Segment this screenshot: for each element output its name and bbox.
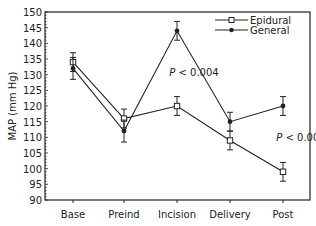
- y-tick-label: 100: [23, 164, 42, 175]
- legend-item-general: General: [215, 25, 289, 36]
- series-general: [70, 21, 286, 142]
- series-line: [73, 31, 283, 131]
- circle-marker: [71, 66, 76, 71]
- circle-marker: [281, 104, 286, 109]
- y-axis-label: MAP (mm Hg): [7, 71, 18, 140]
- p-value-annotation: P < 0.004: [169, 67, 218, 78]
- y-tick-label: 105: [23, 148, 42, 159]
- chart: 9095100105110115120125130135140145150 Ba…: [0, 0, 316, 226]
- y-tick-label: 130: [23, 70, 42, 81]
- square-marker: [227, 138, 232, 143]
- p-value-annotation: P < 0.009: [276, 132, 316, 143]
- y-tick-label: 120: [23, 101, 42, 112]
- series-group: [70, 21, 286, 181]
- legend: EpiduralGeneral: [215, 15, 291, 36]
- y-tick-label: 135: [23, 54, 42, 65]
- y-tick-label: 90: [29, 195, 42, 206]
- x-axis: BasePreindIncisionDeliveryPost: [61, 200, 294, 220]
- series-line: [73, 62, 283, 172]
- y-tick-label: 140: [23, 38, 42, 49]
- y-tick-label: 125: [23, 85, 42, 96]
- x-tick-label: Preind: [108, 209, 139, 220]
- y-axis: 9095100105110115120125130135140145150: [23, 7, 48, 206]
- circle-marker: [122, 129, 127, 134]
- x-tick-label: Base: [61, 209, 85, 220]
- circle-marker: [228, 119, 233, 124]
- legend-label: General: [250, 25, 289, 36]
- square-marker: [174, 103, 179, 108]
- legend-circle-marker: [229, 28, 233, 32]
- square-marker: [280, 169, 285, 174]
- x-tick-label: Post: [273, 209, 294, 220]
- y-tick-label: 110: [23, 132, 42, 143]
- y-tick-label: 150: [23, 7, 42, 18]
- x-tick-label: Delivery: [209, 209, 251, 220]
- x-tick-label: Incision: [158, 209, 196, 220]
- legend-square-marker: [229, 18, 234, 23]
- circle-marker: [175, 28, 180, 33]
- y-tick-label: 115: [23, 117, 42, 128]
- y-tick-label: 145: [23, 23, 42, 34]
- y-tick-label: 95: [29, 179, 42, 190]
- annotations: P < 0.004P < 0.009: [169, 67, 316, 144]
